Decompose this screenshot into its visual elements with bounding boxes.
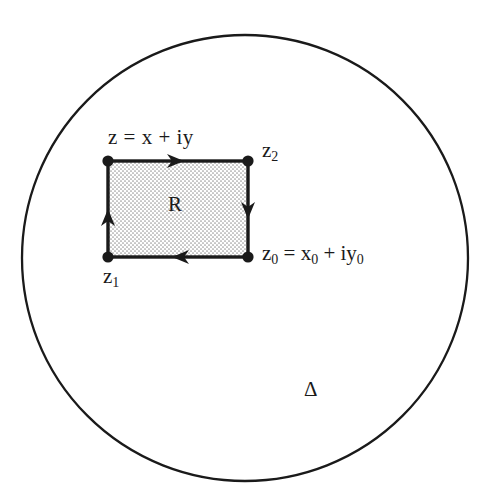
label-z0-equals: = — [278, 241, 300, 265]
label-z0-base: z — [262, 241, 271, 265]
label-z1-base: z — [103, 264, 112, 288]
vertex-dot-bottom-right — [242, 251, 253, 262]
label-y0-subscript: 0 — [357, 252, 364, 267]
label-x0-subscript: 0 — [311, 252, 318, 267]
label-z2: z2 — [262, 140, 278, 161]
label-z0-subscript: 0 — [271, 252, 278, 267]
label-z0-equation: z0 = x0 + iy0 — [262, 243, 364, 264]
label-x0-base: x — [301, 241, 312, 265]
label-plus-i: + i — [318, 241, 346, 265]
label-z1-subscript: 1 — [112, 275, 119, 290]
label-region-r: R — [168, 194, 182, 215]
label-z2-base: z — [262, 138, 271, 162]
label-y0-base: y — [346, 241, 357, 265]
figure-canvas: z = x + iy z2 z0 = x0 + iy0 z1 R Δ — [0, 0, 489, 503]
label-domain-delta: Δ — [304, 379, 318, 400]
label-z-equation: z = x + iy — [108, 127, 194, 148]
vertex-dot-bottom-left — [102, 251, 113, 262]
contour-diagram-svg — [0, 0, 489, 503]
vertex-dot-top-left — [102, 155, 113, 166]
vertex-dot-top-right — [242, 155, 253, 166]
label-z1: z1 — [103, 266, 119, 287]
label-z2-subscript: 2 — [271, 149, 278, 164]
